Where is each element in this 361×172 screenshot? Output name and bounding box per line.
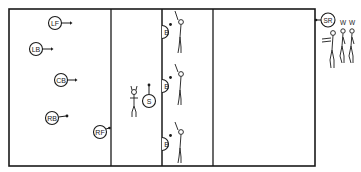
stick-figure-arms-up-icon	[130, 86, 138, 117]
arrow-right-icon	[51, 47, 54, 50]
player-b-bottom-label: B	[164, 141, 169, 148]
player-lf: LF	[49, 17, 73, 30]
player-s: S	[143, 84, 156, 108]
court-diagram: LF LB CB RB RF S	[0, 0, 361, 172]
player-lb-label: LB	[32, 46, 41, 53]
player-rf: RF	[94, 126, 111, 139]
player-lb: LB	[30, 43, 54, 56]
player-b-top: B	[162, 23, 172, 38]
player-cb: CB	[55, 74, 78, 87]
player-sr: SR	[315, 13, 335, 27]
server-figure-icon	[322, 31, 335, 68]
player-cb-label: CB	[56, 77, 66, 84]
player-sr-label: SR	[323, 17, 332, 24]
player-lf-label: LF	[51, 20, 59, 27]
blocker-figure-bottom-icon	[175, 122, 183, 163]
player-rb-label: RB	[47, 115, 57, 122]
player-b-bottom: B	[162, 134, 172, 150]
player-b-middle-label: B	[164, 83, 169, 90]
arrow-right-icon	[75, 78, 78, 81]
blocker-figure-top-icon	[175, 11, 183, 53]
arrow-right-icon	[70, 21, 73, 24]
player-b-top-label: B	[164, 29, 169, 36]
blocker-figure-middle-icon	[175, 64, 183, 105]
waiting-label-1: W	[340, 19, 347, 26]
player-rb: RB	[46, 112, 69, 125]
waiting-label-2: W	[349, 19, 356, 26]
waiting-figure-2-icon	[349, 29, 354, 63]
waiting-figure-1-icon	[340, 29, 345, 63]
player-b-middle: B	[162, 76, 172, 92]
player-s-label: S	[147, 98, 152, 105]
player-rf-label: RF	[95, 129, 104, 136]
